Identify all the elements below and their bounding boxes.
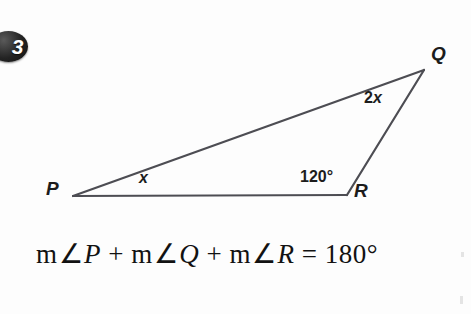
side-PR	[73, 195, 347, 196]
equation-equals: =	[302, 239, 318, 269]
equation-plus-1: +	[108, 239, 124, 269]
scan-artifact	[460, 296, 463, 304]
scan-artifact	[461, 252, 464, 257]
angle-label-Q: 2x	[364, 89, 382, 107]
triangle-svg	[0, 0, 471, 225]
angle-symbol-1: ∠	[58, 239, 85, 269]
equation-result: 180°	[325, 239, 378, 269]
vertex-label-Q: Q	[431, 43, 446, 65]
equation-m-1: m	[36, 239, 58, 269]
equation-var-Q: Q	[179, 239, 199, 269]
angle-symbol-2: ∠	[153, 239, 180, 269]
triangle-diagram: P Q R x 2x 120°	[0, 0, 471, 225]
equation-var-P: P	[84, 239, 101, 269]
side-QR	[347, 70, 424, 195]
equation-plus-2: +	[207, 239, 223, 269]
equation-m-2: m	[131, 239, 153, 269]
angle-label-P: x	[139, 169, 148, 187]
angle-sum-equation: m∠P + m∠Q + m∠R = 180°	[36, 238, 378, 270]
equation-m-3: m	[230, 239, 252, 269]
equation-var-R: R	[278, 239, 295, 269]
vertex-label-P: P	[46, 178, 59, 200]
angle-label-Q-coefficient: 2x	[364, 89, 382, 106]
angle-symbol-3: ∠	[251, 239, 278, 269]
vertex-label-R: R	[354, 180, 368, 202]
worksheet-page: 3 P Q R x 2x 120° m∠P + m∠Q + m∠R = 180°	[0, 0, 471, 314]
angle-label-R: 120°	[300, 168, 333, 186]
